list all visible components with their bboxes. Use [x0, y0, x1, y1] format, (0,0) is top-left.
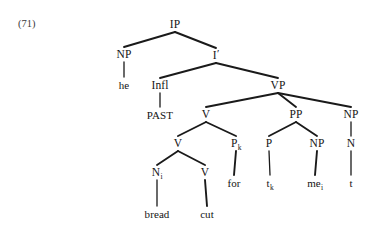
tree-node-label: Infl: [151, 79, 168, 91]
tree-node-n-i: Ni: [152, 167, 163, 179]
tree-node-v-upper: V: [202, 109, 210, 121]
tree-node-vp: VP: [271, 80, 286, 92]
tree-node-label: cut: [200, 208, 214, 220]
tree-node-label: me: [307, 177, 321, 189]
tree-node-label: N: [152, 166, 160, 178]
tree-node-he: he: [119, 80, 130, 91]
tree-node-label: t: [349, 177, 352, 189]
tree-edge-vp-to-np_right: [278, 93, 351, 107]
tree-node-subscript: k: [238, 143, 242, 152]
tree-edge-ip-to-i_bar: [175, 32, 216, 48]
tree-node-label: NP: [310, 137, 325, 149]
tree-node-n-right: N: [347, 138, 355, 150]
tree-node-past: PAST: [147, 110, 173, 121]
tree-node-p-k: Pk: [231, 138, 241, 150]
tree-node-label: P: [266, 137, 273, 149]
tree-edge-v_upper-to-p_k: [206, 122, 236, 136]
tree-edge-ip-to-np_subject: [124, 32, 175, 47]
tree-node-me-i: mei: [307, 178, 323, 189]
tree-node-label: NP: [344, 108, 359, 120]
tree-node-np-right: NP: [344, 109, 359, 121]
tree-node-v-lower: V: [174, 138, 182, 150]
tree-edge-v_upper-to-v_lower: [178, 122, 206, 136]
tree-edge-v_lower-to-v_cut: [178, 151, 205, 165]
tree-edge-i_bar-to-infl: [160, 63, 216, 78]
tree-node-label: PP: [290, 108, 303, 120]
tree-node-cut: cut: [200, 209, 214, 220]
tree-node-label: VP: [271, 79, 286, 91]
tree-node-v-cut: V: [201, 167, 209, 179]
tree-node-label: P: [231, 137, 238, 149]
tree-node-bread: bread: [145, 209, 170, 220]
tree-node-ip: IP: [170, 19, 180, 31]
tree-edge-v_cut-to-cut: [205, 180, 207, 206]
tree-node-subscript: i: [160, 172, 162, 181]
tree-branch-lines: [0, 0, 374, 232]
syntax-tree-figure: (71) IPNPheI′InflPASTVPVVNibreadVcutPkfo…: [0, 0, 374, 232]
tree-node-np-object: NP: [310, 138, 325, 150]
tree-node-label: NP: [117, 48, 132, 60]
tree-node-t-k: tk: [267, 178, 274, 189]
tree-node-label: he: [119, 79, 130, 91]
tree-edge-vp-to-v_upper: [206, 93, 278, 107]
tree-edge-pp-to-p_prep: [269, 122, 296, 136]
tree-node-label: bread: [145, 208, 170, 220]
tree-node-i-bar: I′: [213, 50, 219, 62]
tree-edge-i_bar-to-vp: [216, 63, 278, 78]
tree-node-label: N: [347, 137, 355, 149]
tree-node-label: V: [174, 137, 182, 149]
tree-node-for: for: [227, 178, 240, 189]
tree-node-subscript: i: [321, 182, 323, 191]
tree-node-label: V: [202, 108, 210, 120]
tree-edge-v_lower-to-n_i: [157, 151, 178, 165]
tree-node-label: V: [201, 166, 209, 178]
tree-node-label: for: [227, 177, 240, 189]
tree-node-p-prep: P: [266, 138, 273, 150]
tree-edge-pp-to-np_object: [296, 122, 317, 136]
tree-node-np-subject: NP: [117, 49, 132, 61]
tree-node-subscript: k: [270, 182, 274, 191]
tree-node-label: PAST: [147, 109, 173, 121]
tree-edge-p_k-to-for: [234, 151, 236, 175]
tree-node-prime-mark: ′: [217, 47, 220, 59]
tree-node-label: IP: [170, 18, 180, 30]
tree-edge-np_object-to-me_i: [315, 151, 317, 175]
tree-node-t-right: t: [349, 178, 352, 189]
tree-node-pp: PP: [290, 109, 303, 121]
tree-edge-p_prep-to-t_k: [269, 151, 270, 175]
tree-node-infl: Infl: [151, 80, 168, 92]
